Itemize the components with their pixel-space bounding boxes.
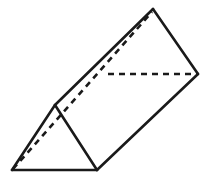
edge-top-ridge (55, 9, 153, 105)
edge-bottom-right (97, 74, 198, 170)
edge-front-left (12, 105, 55, 170)
triangular-prism-diagram (0, 0, 207, 180)
edge-back-right (153, 9, 198, 74)
edge-front-right (55, 105, 97, 170)
